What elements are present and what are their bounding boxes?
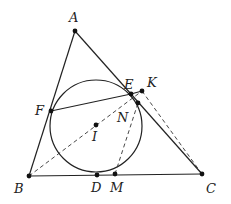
label-m: M bbox=[109, 180, 124, 195]
point-e bbox=[129, 92, 134, 97]
point-m bbox=[113, 172, 118, 177]
point-d bbox=[95, 173, 100, 178]
label-b: B bbox=[13, 181, 24, 196]
dashed-kc bbox=[142, 91, 202, 174]
point-i bbox=[94, 123, 99, 128]
point-f bbox=[49, 109, 54, 114]
label-d: D bbox=[90, 180, 102, 195]
label-a: A bbox=[68, 10, 78, 25]
label-f: F bbox=[34, 103, 45, 118]
label-n: N bbox=[116, 110, 129, 125]
point-k bbox=[140, 89, 145, 94]
point-a bbox=[73, 29, 78, 34]
geometry-diagram: A B C D M E K N F I bbox=[0, 0, 231, 204]
label-i: I bbox=[91, 129, 98, 144]
point-n bbox=[136, 101, 141, 106]
label-e: E bbox=[123, 77, 134, 92]
label-k: K bbox=[146, 75, 158, 90]
label-c: C bbox=[206, 181, 216, 196]
point-c bbox=[200, 172, 205, 177]
point-b bbox=[27, 174, 32, 179]
